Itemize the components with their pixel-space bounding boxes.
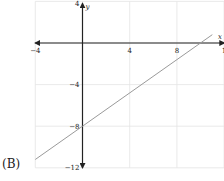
y-tick-label: 4: [75, 0, 80, 8]
x-tick-label: 8: [175, 47, 179, 55]
y-axis-label: y: [85, 3, 91, 11]
x-tick-label: −4: [30, 47, 41, 55]
x-tick-label: 4: [127, 47, 132, 55]
y-tick-label: −12: [65, 164, 80, 172]
answer-choice-label: (B): [2, 157, 20, 171]
x-tick-label: 1: [222, 47, 224, 55]
coordinate-plane: −44814−4−8−12yx: [0, 0, 224, 181]
y-tick-label: −4: [69, 81, 80, 89]
plotted-line: [35, 35, 212, 160]
x-axis-label: x: [218, 33, 222, 41]
